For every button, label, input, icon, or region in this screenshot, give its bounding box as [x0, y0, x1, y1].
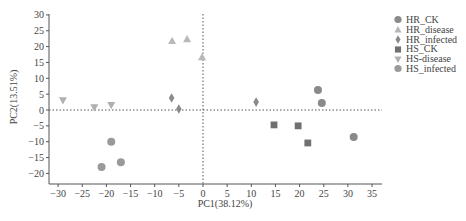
data-points: [59, 35, 358, 171]
reference-lines: [49, 14, 382, 184]
y-tick-label: 10: [34, 73, 44, 84]
data-point-diamond: [169, 93, 175, 103]
data-point-square: [304, 140, 311, 147]
x-tick-label: 15: [270, 188, 280, 199]
circle-marker-icon: [393, 15, 403, 24]
data-point-triangle-up: [198, 53, 206, 60]
y-tick-label: 0: [39, 105, 44, 116]
data-point-circle: [318, 99, 326, 107]
triangle-up-marker-icon: [393, 25, 403, 34]
data-point-square: [271, 121, 278, 128]
data-point-diamond: [253, 97, 259, 107]
data-point-triangle-up: [183, 35, 191, 42]
legend-item-hs-infected: HS_infected: [393, 64, 457, 74]
y-tick-label: 20: [34, 41, 44, 52]
x-tick-label: −30: [50, 188, 66, 199]
legend: HR_CK HR_disease HR_infected HS_CK HS-di…: [393, 15, 457, 74]
y-tick-label: −5: [33, 120, 44, 131]
y-tick-label: −10: [28, 136, 44, 147]
data-point-circle: [98, 163, 106, 171]
data-point-triangle-down: [59, 97, 67, 104]
data-point-circle: [117, 158, 125, 166]
data-point-triangle-down: [107, 102, 115, 109]
square-marker-icon: [393, 45, 403, 54]
data-point-circle: [107, 138, 115, 146]
data-point-triangle-up: [168, 37, 176, 44]
circle-marker-icon: [393, 64, 403, 73]
data-point-circle: [350, 133, 358, 141]
y-tick-label: 15: [34, 57, 44, 68]
x-tick-label: 20: [295, 188, 305, 199]
data-point-diamond: [176, 104, 182, 114]
y-tick-label: −15: [28, 152, 44, 163]
legend-label: HS_infected: [406, 64, 456, 74]
data-point-circle: [314, 86, 322, 94]
x-tick-label: −5: [174, 188, 185, 199]
y-tick-label: 5: [39, 89, 44, 100]
y-tick-label: 25: [34, 25, 44, 36]
triangle-down-marker-icon: [393, 55, 403, 64]
x-tick-label: 30: [343, 188, 353, 199]
x-tick-label: −10: [147, 188, 163, 199]
x-axis-title: PC1(38.12%): [198, 198, 253, 210]
data-point-square: [295, 122, 302, 129]
y-tick-label: 30: [34, 9, 44, 20]
y-axis-title: PC2(13.51%): [8, 70, 20, 125]
x-tick-label: 35: [367, 188, 377, 199]
x-tick-label: 25: [319, 188, 329, 199]
x-tick-label: −15: [123, 188, 139, 199]
axes: 302520151050−5−10−15−20−30−25−20−15−10−5…: [28, 9, 382, 199]
y-tick-label: −20: [28, 168, 44, 179]
diamond-marker-icon: [393, 35, 403, 44]
x-tick-label: −20: [99, 188, 115, 199]
x-tick-label: −25: [74, 188, 90, 199]
